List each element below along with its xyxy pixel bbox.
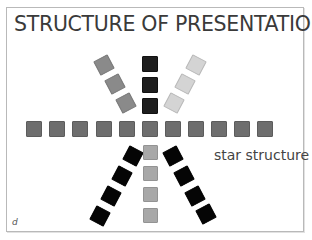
star-square-horizontal — [142, 121, 158, 137]
star-square-horizontal — [211, 121, 227, 137]
star-square-horizontal — [72, 121, 88, 137]
star-square-lower-center — [143, 187, 158, 202]
star-square-horizontal — [165, 121, 181, 137]
star-square-horizontal — [257, 121, 273, 137]
star-square-lower-center — [143, 145, 158, 160]
star-structure-label: star structure — [214, 147, 309, 163]
star-square-lower-center — [143, 208, 158, 223]
star-square-horizontal — [119, 121, 135, 137]
star-square-horizontal — [26, 121, 42, 137]
star-square-horizontal — [49, 121, 65, 137]
star-square-horizontal — [188, 121, 204, 137]
star-square-horizontal — [96, 121, 112, 137]
star-square-upper-center — [142, 98, 158, 114]
star-square-horizontal — [234, 121, 250, 137]
star-square-lower-center — [143, 166, 158, 181]
star-square-upper-center — [142, 77, 158, 93]
star-square-upper-center — [142, 56, 158, 72]
slide-title: STRUCTURE OF PRESENTATION — [14, 12, 304, 36]
corner-letter: d — [12, 217, 18, 227]
